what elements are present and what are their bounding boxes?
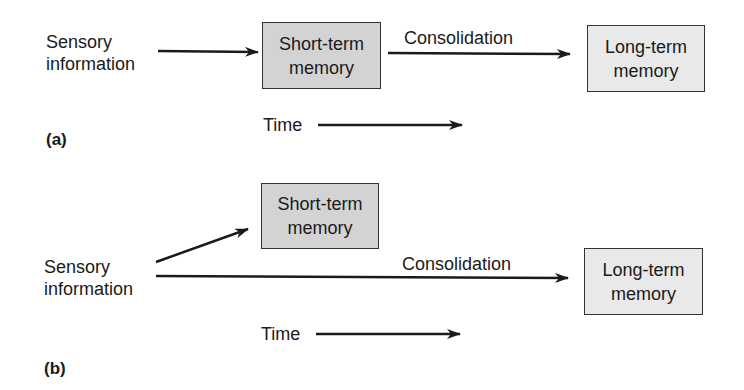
sensory-line1: Sensory: [46, 31, 135, 53]
panel-label-b: (b): [44, 359, 66, 379]
consolidation-label-b: Consolidation: [402, 253, 511, 275]
sensory-line1: Sensory: [44, 256, 133, 278]
time-label-b: Time: [261, 323, 300, 345]
time-label-a: Time: [263, 114, 302, 136]
arrow-sensory-to-short-term-b: [156, 229, 248, 262]
arrow-consolidation-a: [388, 53, 570, 54]
sensory-line2: information: [46, 53, 135, 75]
short-term-memory-box-b: Short-term memory: [261, 183, 379, 249]
short-term-line1: Short-term: [277, 192, 362, 216]
long-term-memory-box-b: Long-term memory: [584, 248, 703, 315]
sensory-line2: information: [44, 278, 133, 300]
long-term-line1: Long-term: [602, 258, 684, 282]
long-term-line2: memory: [611, 282, 676, 306]
arrow-sensory-to-short-term-a: [158, 51, 258, 52]
sensory-information-label-a: Sensory information: [46, 31, 135, 75]
long-term-line2: memory: [613, 59, 678, 83]
short-term-line1: Short-term: [279, 32, 364, 56]
arrow-consolidation-b: [156, 276, 568, 278]
sensory-information-label-b: Sensory information: [44, 256, 133, 300]
consolidation-label-a: Consolidation: [404, 27, 513, 49]
short-term-line2: memory: [289, 56, 354, 80]
short-term-line2: memory: [287, 216, 352, 240]
long-term-memory-box-a: Long-term memory: [587, 25, 705, 92]
panel-label-a: (a): [46, 130, 67, 150]
long-term-line1: Long-term: [605, 35, 687, 59]
short-term-memory-box-a: Short-term memory: [262, 22, 381, 89]
